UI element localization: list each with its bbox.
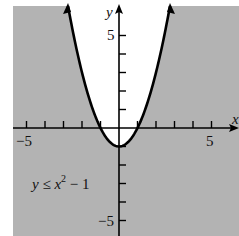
inequality-prefix: y ≤ x — [30, 176, 61, 192]
inequality-label: y ≤ x2 − 1 — [30, 173, 90, 192]
x-axis-label: x — [231, 111, 239, 127]
inequality-graph: y x −5 5 5 −5 y ≤ x2 − 1 — [0, 0, 239, 236]
x-tick-label-5: 5 — [206, 133, 214, 149]
y-tick-label-neg5: −5 — [98, 213, 114, 229]
x-tick-label-neg5: −5 — [16, 133, 32, 149]
y-axis-label: y — [104, 4, 113, 20]
y-tick-label-5: 5 — [107, 27, 115, 43]
inequality-suffix: − 1 — [66, 176, 89, 192]
